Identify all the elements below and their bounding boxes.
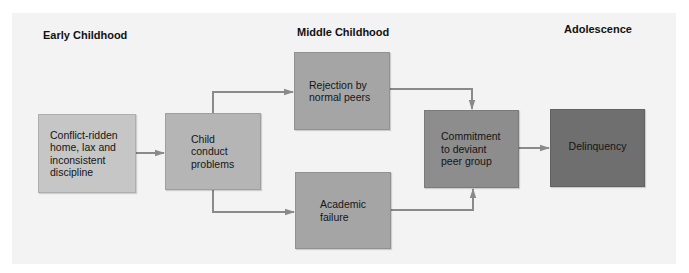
node-label: Commitment to deviant peer group — [425, 130, 518, 168]
node-rejection-by-normal-peers: Rejection by normal peers — [294, 52, 390, 130]
node-conflict-ridden-home: Conflict-ridden home, lax and inconsiste… — [38, 114, 136, 193]
node-label: Rejection by normal peers — [295, 79, 389, 104]
node-academic-failure: Academic failure — [295, 172, 391, 249]
node-label: Academic failure — [296, 198, 390, 223]
node-label: Delinquency — [569, 140, 627, 153]
node-child-conduct-problems: Child conduct problems — [165, 113, 261, 190]
stage-label-adolescence: Adolescence — [564, 23, 632, 35]
node-commitment-to-deviant-peer-group: Commitment to deviant peer group — [424, 110, 519, 188]
node-delinquency: Delinquency — [550, 109, 645, 187]
stage-label-early-childhood: Early Childhood — [43, 29, 127, 41]
stage-label-middle-childhood: Middle Childhood — [297, 26, 389, 38]
node-label: Conflict-ridden home, lax and inconsiste… — [39, 129, 135, 179]
node-label: Child conduct problems — [166, 133, 260, 171]
